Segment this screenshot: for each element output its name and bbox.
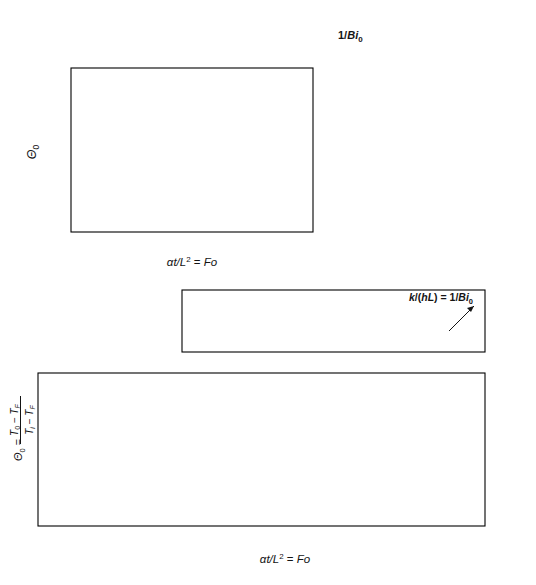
- heisler-figure: Θ0 αt/L2 = Fo 1/Bi0 Θ0 =: [0, 0, 536, 585]
- heisler-chart-svg: Θ0 αt/L2 = Fo 1/Bi0 Θ0 =: [0, 0, 536, 585]
- top-chart-x-axis-title: αt/L2 = Fo: [167, 255, 218, 268]
- bottom-chart-x-axis-title: αt/L2 = Fo: [260, 552, 311, 565]
